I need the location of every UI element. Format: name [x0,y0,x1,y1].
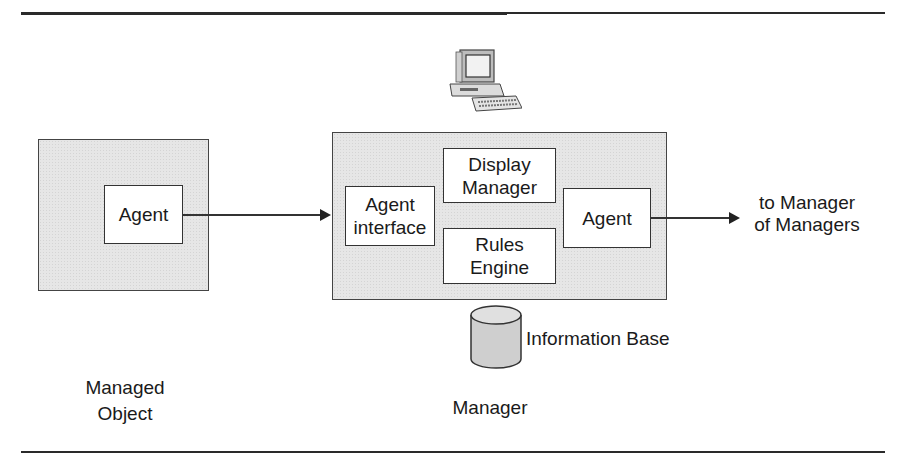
rule-bottom-complete [21,451,885,453]
arrow-agent-to-manager-line [182,214,320,216]
to-manager-of-managers-label: to Manager of Managers [742,192,872,236]
agent-interface-label-line2: interface [354,216,427,239]
managed-object-caption-line2: Object [60,401,190,427]
agent-interface-label-line1: Agent [354,193,427,216]
rule-top-complete [21,12,885,14]
manager-agent-box: Agent [563,188,651,248]
arrow-to-mom-head [729,212,740,224]
display-manager-label-line2: Manager [462,176,537,199]
display-manager-box: Display Manager [443,148,556,203]
rules-engine-box: Rules Engine [443,228,556,284]
managed-object-agent-label: Agent [119,203,169,226]
information-base-label: Information Base [526,326,670,352]
rules-engine-label-line2: Engine [470,256,529,279]
database-cylinder-icon [468,303,524,373]
agent-interface-box: Agent interface [345,186,435,246]
rules-engine-label-line1: Rules [470,233,529,256]
to-mom-line1: to Manager [742,192,872,214]
arrow-agent-to-manager-head [320,209,331,221]
manager-caption: Manager [430,395,550,421]
manager-agent-label: Agent [582,207,632,230]
computer-workstation-icon [442,48,522,118]
managed-object-agent-box: Agent [104,185,183,244]
managed-object-caption-line1: Managed [60,375,190,401]
display-manager-label-line1: Display [462,153,537,176]
to-mom-line2: of Managers [742,214,872,236]
arrow-to-mom-line [651,217,730,219]
managed-object-caption: Managed Object [60,375,190,427]
